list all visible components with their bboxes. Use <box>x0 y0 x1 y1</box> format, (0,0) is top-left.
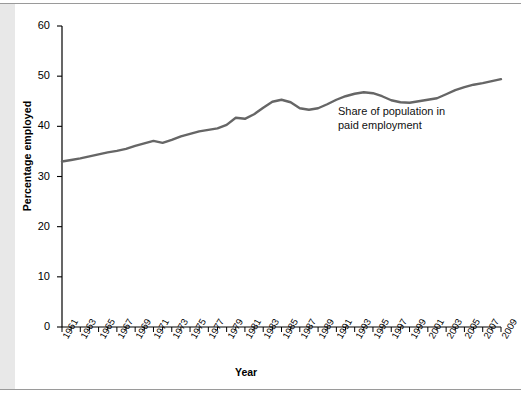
chart-figure: 0102030405060 19611963196519671969197119… <box>0 0 521 393</box>
y-tick-label: 0 <box>24 320 50 332</box>
y-tick-label: 50 <box>24 69 50 81</box>
chart-axes <box>62 26 501 327</box>
x-axis-title: Year <box>235 366 257 378</box>
series-annotation-label: Share of population in paid employment <box>338 104 445 132</box>
y-axis-title: Percentage employed <box>21 91 33 221</box>
y-axis-ticks <box>57 26 62 327</box>
y-tick-label: 60 <box>24 19 50 31</box>
y-tick-label: 20 <box>24 220 50 232</box>
y-tick-label: 10 <box>24 270 50 282</box>
